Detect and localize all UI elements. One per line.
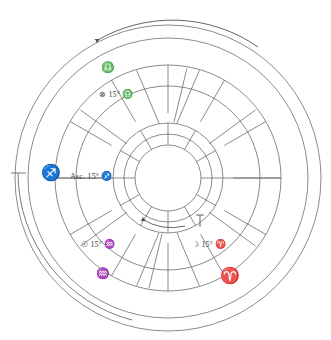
moon-degree: 15° bbox=[201, 240, 213, 249]
sun-degree: 15° bbox=[90, 240, 102, 249]
moon-sign-glyph: ♈ bbox=[215, 239, 226, 249]
ascendant-sign-glyph: ♐ bbox=[101, 171, 112, 181]
inner-spoke-1 bbox=[197, 151, 216, 162]
astrology-chart-wheel: ♎ ⊗ 15° ♎ ♐ Asc. 15° ♐ ☉ 15° ♒ ☽ 15° ♈ ♒… bbox=[0, 0, 331, 340]
spoke-4 bbox=[112, 80, 136, 122]
inner-spoke-4 bbox=[141, 130, 152, 149]
inner-spoke-7 bbox=[120, 195, 139, 206]
placement-moon: ☽ 15° ♈ bbox=[192, 240, 227, 249]
cusp-ray-12 bbox=[80, 110, 126, 144]
house-spokes-inner bbox=[113, 123, 223, 233]
placement-sun: ☉ 15° ♒ bbox=[81, 240, 116, 249]
inner-spoke-2 bbox=[185, 130, 196, 149]
cusp-ray-8 bbox=[209, 110, 255, 144]
inner-spoke-5 bbox=[120, 151, 139, 162]
fortune-degree: 15° bbox=[108, 90, 120, 99]
spoke-5 bbox=[70, 122, 112, 146]
inner-spoke-11 bbox=[197, 195, 216, 206]
placement-part-of-fortune: ⊗ 15° ♎ bbox=[99, 90, 134, 99]
spoke-2 bbox=[201, 80, 225, 122]
moon-body-glyph: ☽ bbox=[192, 240, 199, 249]
spoke-11 bbox=[224, 211, 266, 235]
placement-ascendant: Asc. 15° ♐ bbox=[70, 172, 113, 181]
spoke-1 bbox=[224, 122, 266, 146]
sun-body-glyph: ☉ bbox=[81, 240, 88, 249]
cusp-ray-11 bbox=[137, 70, 159, 123]
spoke-7 bbox=[70, 211, 112, 235]
fortune-body-glyph: ⊗ bbox=[99, 90, 106, 99]
ring-core bbox=[135, 145, 201, 211]
fortune-sign-glyph: ♎ bbox=[122, 89, 133, 99]
sign-glyph-libra: ♎ bbox=[101, 62, 115, 73]
sign-glyph-aries: ♈ bbox=[220, 268, 240, 284]
inner-motion-arrow bbox=[142, 219, 185, 228]
direction-arc-outer bbox=[96, 20, 258, 47]
ccw-motion-arrow bbox=[96, 20, 258, 47]
ascendant-text: Asc. 15° bbox=[70, 172, 99, 181]
ring-inner-outer bbox=[124, 134, 212, 222]
inner-spoke-10 bbox=[185, 207, 196, 226]
sun-sign-glyph: ♒ bbox=[104, 239, 115, 249]
sign-glyph-aquarius: ♒ bbox=[96, 268, 110, 279]
sign-glyph-sagittarius: ♐ bbox=[41, 165, 61, 181]
